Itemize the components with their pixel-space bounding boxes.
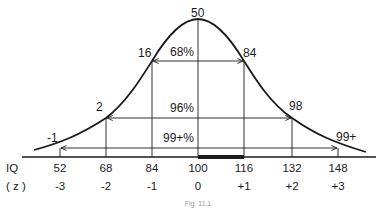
iq-tick: 148 <box>328 162 347 174</box>
bell-curve <box>34 19 366 152</box>
iq-tick: 52 <box>54 162 67 174</box>
z-tick: -1 <box>147 180 157 192</box>
z-tick: +1 <box>237 180 250 192</box>
iq-tick: 116 <box>235 162 253 174</box>
iq-tick: 84 <box>146 162 159 174</box>
z-tick: 0 <box>195 180 201 192</box>
percentile-label-mean: 50 <box>191 6 205 20</box>
iq-tick: 68 <box>100 162 113 174</box>
z-tick: +3 <box>331 180 344 192</box>
z-row-label: ( z ) <box>6 180 26 192</box>
z-tick: -3 <box>55 180 65 192</box>
iq-row-label: IQ <box>6 162 18 174</box>
percentile-label-plus3: 99+ <box>336 130 356 144</box>
normal-curve-diagram: 68% 96% 99+% -1 2 16 50 84 98 99+ IQ ( z… <box>0 0 382 209</box>
range-label-one-sd: 68% <box>170 45 194 59</box>
iq-tick: 132 <box>282 162 301 174</box>
z-tick: -2 <box>101 180 111 192</box>
range-label-two-sd: 96% <box>170 101 194 115</box>
figure-caption: Fig. 11.1 <box>185 200 212 208</box>
z-tick: +2 <box>285 180 298 192</box>
percentile-label-plus1: 84 <box>243 46 257 60</box>
percentile-label-minus3: -1 <box>47 131 58 145</box>
range-label-three-sd: 99+% <box>163 131 194 145</box>
percentile-label-minus1: 16 <box>138 46 152 60</box>
percentile-label-plus2: 98 <box>289 99 303 113</box>
highlight-bar <box>198 155 244 159</box>
percentile-label-minus2: 2 <box>96 100 103 114</box>
iq-tick: 100 <box>188 162 207 174</box>
